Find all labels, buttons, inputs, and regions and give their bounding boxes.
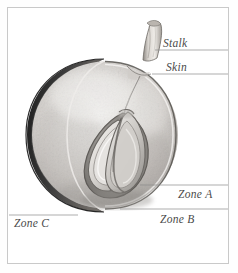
label-skin: Skin	[166, 62, 187, 74]
fruit-cross-section-illustration	[0, 0, 238, 273]
label-zone-b: Zone B	[160, 214, 195, 226]
label-zone-a: Zone A	[178, 189, 213, 201]
stalk-shape	[143, 20, 162, 61]
label-zone-c: Zone C	[14, 218, 49, 230]
figure-root: Stalk Skin Zone A Zone B Zone C	[0, 0, 238, 273]
label-stalk: Stalk	[163, 38, 188, 50]
